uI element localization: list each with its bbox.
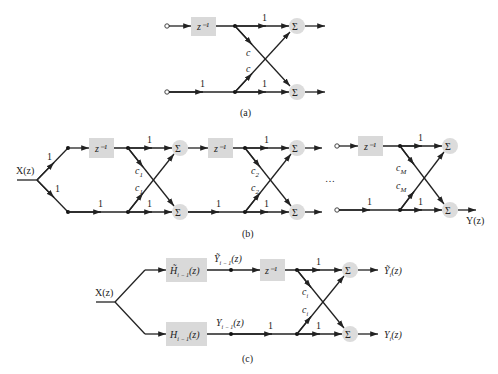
sum-symbol: Σ bbox=[445, 205, 451, 216]
sum-symbol: Σ bbox=[292, 207, 298, 218]
coef-label: c bbox=[246, 47, 251, 58]
input-node-top bbox=[165, 24, 169, 28]
gain-label: 1 bbox=[200, 78, 205, 89]
signal-node bbox=[229, 332, 233, 336]
delay-label: z⁻¹ bbox=[363, 141, 376, 152]
lattice-filter-figure: z⁻¹ 1 1 1 c c Σ Σ (a) X(z) 1 1 bbox=[0, 0, 498, 374]
coef-label: ci bbox=[302, 286, 308, 299]
gain-label: 1 bbox=[47, 151, 52, 162]
ellipsis: … bbox=[325, 173, 335, 184]
gain-label: 1 bbox=[418, 132, 423, 143]
coef-label: ci bbox=[302, 304, 308, 317]
diagram-a: z⁻¹ 1 1 1 c c Σ Σ (a) bbox=[165, 12, 325, 119]
caption-b: (b) bbox=[242, 228, 254, 240]
coef-label: c1 bbox=[135, 165, 143, 179]
stage-2: z⁻¹ 1 1 1 c2 c2 Σ Σ bbox=[188, 134, 322, 220]
input-label: X(z) bbox=[16, 165, 34, 177]
gain-label: 1 bbox=[268, 320, 273, 331]
delay-label: z⁻¹ bbox=[94, 143, 107, 154]
coef-label: cM bbox=[396, 162, 407, 176]
coef-label: cM bbox=[396, 180, 407, 194]
gain-label: 1 bbox=[216, 198, 221, 209]
coef-label: c bbox=[246, 63, 251, 74]
output-label: Y(z) bbox=[466, 215, 484, 227]
caption-a: (a) bbox=[240, 107, 251, 119]
stage-m: z⁻¹ 1 1 1 cM cM Σ Σ Y(z) bbox=[335, 132, 485, 227]
output-lower-label: Yi(z) bbox=[384, 329, 402, 342]
sum-symbol: Σ bbox=[445, 141, 451, 152]
input-node-bottom bbox=[335, 208, 339, 212]
lower-signal-label: Yi − 1(z) bbox=[216, 317, 245, 330]
sum-symbol: Σ bbox=[175, 207, 181, 218]
gain-label: 1 bbox=[147, 198, 152, 209]
gain-label: 1 bbox=[264, 134, 269, 145]
sum-symbol: Σ bbox=[345, 265, 351, 276]
signal-node bbox=[229, 268, 233, 272]
delay-label: z⁻¹ bbox=[264, 265, 277, 276]
coef-label: c2 bbox=[251, 182, 259, 196]
gain-label: 1 bbox=[264, 198, 269, 209]
sum-symbol: Σ bbox=[345, 329, 351, 340]
input-node-bottom bbox=[165, 90, 169, 94]
diagram-b: X(z) 1 1 z⁻¹ 1 1 1 c1 c1 bbox=[16, 132, 484, 240]
coef-label: c1 bbox=[135, 182, 143, 196]
gain-label: 1 bbox=[55, 183, 60, 194]
output-upper-label: Ỹi(z) bbox=[384, 265, 402, 278]
gain-label: 1 bbox=[98, 198, 103, 209]
gain-label: 1 bbox=[147, 134, 152, 145]
sum-symbol: Σ bbox=[292, 21, 298, 32]
sum-symbol: Σ bbox=[292, 143, 298, 154]
delay-label: z⁻¹ bbox=[213, 143, 226, 154]
gain-label: 1 bbox=[316, 320, 321, 331]
diagram-c: X(z) H̃i − 1(z) Hi − 1(z) Ỹi − 1(z) z⁻¹… bbox=[95, 253, 402, 365]
sum-symbol: Σ bbox=[175, 143, 181, 154]
gain-label: 1 bbox=[367, 196, 372, 207]
coef-label: c2 bbox=[251, 165, 259, 179]
upper-signal-label: Ỹi − 1(z) bbox=[214, 253, 243, 266]
caption-c: (c) bbox=[242, 353, 253, 365]
sum-symbol: Σ bbox=[292, 87, 298, 98]
gain-label: 1 bbox=[418, 196, 423, 207]
gain-label: 1 bbox=[262, 78, 267, 89]
input-label: X(z) bbox=[95, 287, 113, 299]
delay-label: z⁻¹ bbox=[196, 21, 209, 32]
gain-label: 1 bbox=[262, 12, 267, 23]
gain-label: 1 bbox=[316, 256, 321, 267]
stage-1: z⁻¹ 1 1 1 c1 c1 Σ Σ bbox=[68, 134, 188, 220]
input-node-top bbox=[335, 144, 339, 148]
